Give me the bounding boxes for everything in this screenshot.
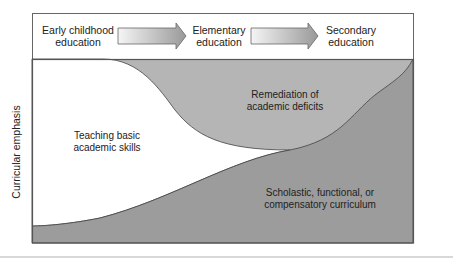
stage-line: Early childhood [38,24,118,36]
stage-line: education [38,36,118,48]
label-scholastic: Scholastic, functional, or compensatory … [250,187,390,211]
stage-early-childhood: Early childhood education [38,24,118,48]
stage-line: education [320,36,382,48]
label-basic-skills: Teaching basic academic skills [62,130,152,154]
stage-line: Secondary [320,24,382,36]
stage-line: Elementary [188,24,250,36]
region-line: Scholastic, functional, or [250,187,390,199]
stage-secondary: Secondary education [320,24,382,48]
region-line: Remediation of [235,89,335,101]
label-remediation: Remediation of academic deficits [235,89,335,113]
region-line: academic deficits [235,101,335,113]
y-axis-label: Curricular emphasis [10,102,22,202]
region-line: Teaching basic [62,130,152,142]
region-line: academic skills [62,142,152,154]
stage-elementary: Elementary education [188,24,250,48]
stage-line: education [188,36,250,48]
bottom-divider [0,256,453,258]
curriculum-diagram: Early childhood education Elementary edu… [0,0,453,260]
region-line: compensatory curriculum [250,199,390,211]
